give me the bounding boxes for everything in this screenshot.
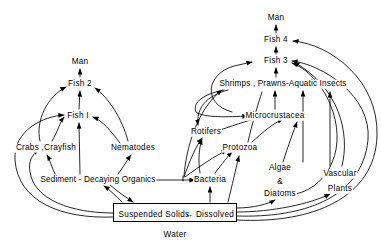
node-sediment-decaying-organics: Sediment - Decaying Organics <box>39 176 156 185</box>
edge-sediment-nematodes <box>118 155 131 174</box>
edge-water-fish4 <box>237 41 377 220</box>
node-microcrustacea: Microcrustacea <box>244 112 305 121</box>
water-box-dissolved-label: Dissolved <box>196 210 234 219</box>
edge-protozoa-microcrustacea <box>252 119 283 142</box>
edge-fish1-fish2 <box>79 91 80 109</box>
node-vascular-plants: Plants <box>327 185 353 194</box>
node-crabs-crayfish: Crabs ,Crayfish <box>15 144 77 153</box>
node-man-left: Man <box>71 58 90 67</box>
node-fish-4: Fish 4 <box>263 36 289 45</box>
edge-sediment-fish1 <box>79 123 80 174</box>
edge-bacteria-rotifers <box>199 139 202 173</box>
node-fish-3: Fish 3 <box>263 57 289 66</box>
edge-nematodes-fish2 <box>95 88 128 141</box>
edge-sediment-protozoa <box>185 150 227 177</box>
edge-water-algae <box>237 200 275 208</box>
edge-shrimps-microcrustacea <box>195 90 248 117</box>
node-rotifers: Rotifers <box>190 128 222 137</box>
edge-shrimps-rotifers <box>198 90 228 125</box>
edge-water-sediment <box>104 186 122 202</box>
water-box-exchange-arrow-icon: ↔ <box>185 210 194 219</box>
edge-sediment-crabs <box>47 155 55 174</box>
node-shrimps-prawns-aquatic-insects: Shrimps , Prawns-Aquatic Insects <box>218 80 347 89</box>
edge-water-protozoa <box>228 156 239 202</box>
node-algae: Algae <box>268 164 292 173</box>
node-bacteria: Bacteria <box>193 176 227 185</box>
edge-crabs-fish1 <box>52 117 64 141</box>
node-fish-1: Fish I <box>66 112 90 121</box>
node-fish-2: Fish 2 <box>67 80 93 89</box>
node-man-right: Man <box>267 14 286 23</box>
node-vascular: Vascular <box>322 170 357 179</box>
water-compartment-box: Suspended Solids ↔ Dissolved <box>113 203 237 222</box>
edge-nematodes-fish1 <box>93 117 120 143</box>
node-nematodes: Nematodes <box>110 144 156 153</box>
water-box-suspended-solids-label: Suspended Solids <box>119 210 190 219</box>
food-web-diagram: Man Fish 2 Fish I Crabs ,Crayfish Nemato… <box>0 0 381 247</box>
edge-algae-microcrustacea <box>283 122 297 162</box>
edge-crabs-fish2 <box>39 87 66 141</box>
diagram-caption-water: Water <box>163 230 186 239</box>
node-diatoms: Diatoms <box>263 190 297 199</box>
node-protozoa: Protozoa <box>222 144 259 153</box>
node-algae-ampersand: & <box>276 178 284 187</box>
